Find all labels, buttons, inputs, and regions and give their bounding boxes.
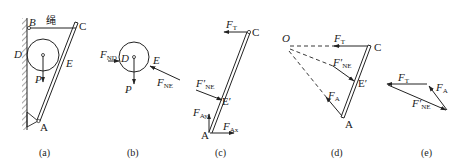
rod-cap-top <box>368 45 371 46</box>
label-f-ne: FNE <box>156 76 173 90</box>
caption-b: (b) <box>127 147 139 159</box>
label-e-prime: E′ <box>222 95 231 107</box>
label-a: A <box>201 129 209 141</box>
label-f-ax: FAx <box>222 120 239 134</box>
label-d: D <box>13 48 22 60</box>
panel-d: O FT C F′NE E′ FA A (d) <box>282 32 381 159</box>
rod-ac-edge2 <box>40 23 78 121</box>
panel-a: B 绳 C D E P A (a) <box>13 14 86 159</box>
panel-e: FT FA F′NE (e) <box>387 71 448 159</box>
label-f-t: FT <box>225 18 238 32</box>
label-f-t: FT <box>397 71 410 85</box>
label-f-nd: FND <box>99 48 117 62</box>
label-c: C <box>252 26 259 38</box>
label-c: C <box>79 20 86 32</box>
caption-a: (a) <box>39 147 50 159</box>
rod-cap-bottom <box>341 117 344 118</box>
label-e: E <box>65 57 73 69</box>
label-b: B <box>29 16 36 28</box>
label-rope: 绳 <box>46 14 56 26</box>
label-a: A <box>40 121 48 133</box>
label-f-a: FA <box>327 89 340 103</box>
force-diagram-figure: B 绳 C D E P A (a) FND D E FNE P (b) FT C… <box>0 0 457 168</box>
label-a: A <box>345 118 353 130</box>
pin-support-a <box>27 112 38 127</box>
label-c: C <box>374 41 381 53</box>
label-e-prime: E′ <box>358 77 367 89</box>
label-f-ne-prime: F′NE <box>411 97 430 111</box>
force-arrow-f-ne-prime <box>196 90 222 100</box>
label-f-a: FA <box>435 81 448 95</box>
caption-e: (e) <box>421 147 432 159</box>
label-f-ne-prime: F′NE <box>195 77 214 91</box>
label-o: O <box>282 32 290 44</box>
label-e: E <box>152 54 160 66</box>
rod-edge1 <box>209 32 247 132</box>
dashed-line-o-to-fne <box>290 49 333 66</box>
caption-c: (c) <box>215 147 226 159</box>
label-f-t: FT <box>333 32 346 46</box>
dashed-line-o-to-fa <box>289 51 327 98</box>
panel-b: FND D E FNE P (b) <box>99 42 180 159</box>
label-p: P <box>124 83 132 95</box>
hinge-c <box>247 30 250 33</box>
force-arrow-f-ne <box>150 66 180 80</box>
label-f-ne-prime: F′NE <box>332 56 351 70</box>
rod-edge2 <box>212 33 250 133</box>
label-d: D <box>120 52 129 64</box>
caption-d: (d) <box>331 147 343 159</box>
wall-hatching <box>22 18 27 130</box>
label-p: P <box>34 73 42 85</box>
label-f-ay: FAy <box>192 106 208 120</box>
rod-top-cap <box>75 22 78 23</box>
panel-c: FT C F′NE E′ FAy FAx A (c) <box>192 18 259 159</box>
